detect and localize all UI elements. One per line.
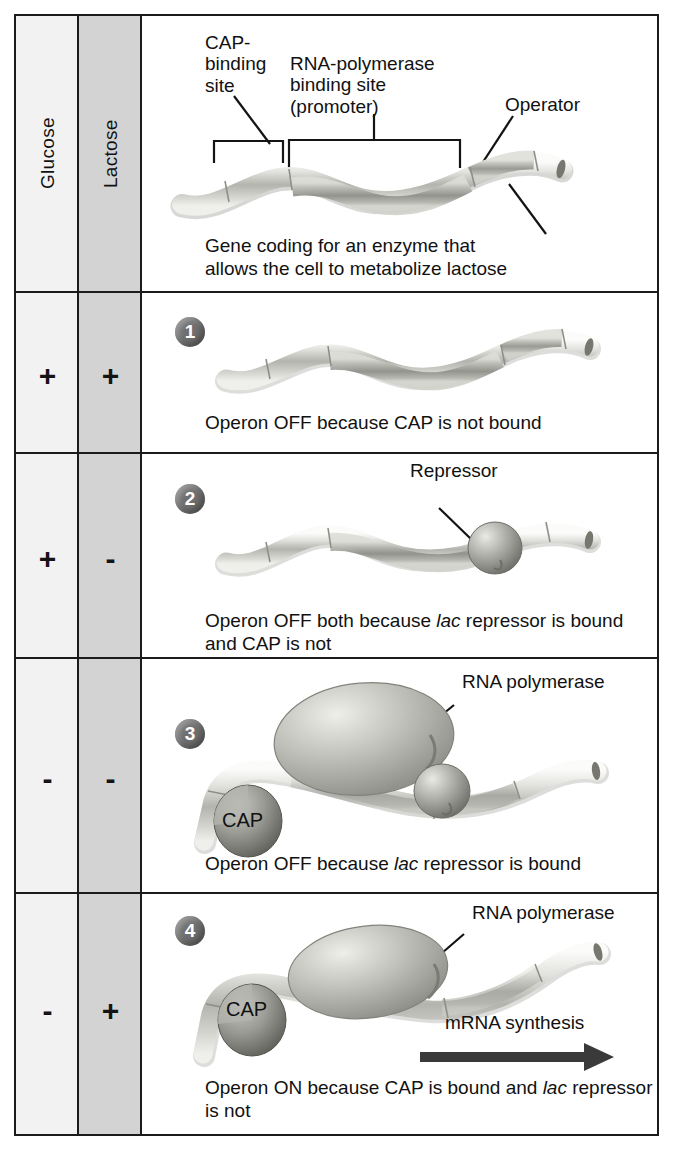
- row-4-graphic: [142, 906, 661, 1076]
- repressor-protein: [414, 764, 470, 818]
- dna-strand: [226, 522, 595, 566]
- caption-row-2: Operon OFF both because lac repressor is…: [205, 609, 657, 655]
- caption-row-1: Operon OFF because CAP is not bound: [205, 411, 542, 434]
- panel-row-1: 1 Operon OFF because CAP is not bound: [142, 293, 657, 452]
- row-1-graphic: [142, 307, 661, 427]
- cell-lactose-row-1: +: [79, 361, 142, 391]
- panel-row-2: 2 Repressor Operon OFF both because lac …: [142, 454, 657, 657]
- row-3-graphic: [142, 673, 661, 868]
- panel-row-4: 4 RNA polymerase: [142, 894, 657, 1136]
- cell-glucose-row-1: +: [16, 361, 79, 391]
- dna-strand: [182, 151, 567, 208]
- cell-lactose-row-4: +: [79, 996, 142, 1026]
- label-mrna-synthesis: mRNA synthesis: [445, 1012, 584, 1034]
- caption-row-4: Operon ON because CAP is bound and lac r…: [205, 1076, 655, 1122]
- cell-lactose-row-2: -: [79, 544, 142, 574]
- lac-operon-figure: Glucose Lactose + + + - - - - + CAP- bin…: [14, 14, 659, 1136]
- label-cap-row-4: CAP: [226, 998, 267, 1020]
- row-2-graphic: [142, 472, 661, 622]
- panel-header: CAP- binding site RNA-polymerase binding…: [142, 16, 657, 291]
- repressor-protein: [468, 522, 522, 574]
- cell-glucose-row-2: +: [16, 544, 79, 574]
- column-header-lactose: Lactose: [79, 16, 142, 291]
- caption-gene-line1: Gene coding for an enzyme that: [205, 234, 475, 257]
- caption-gene-line2: allows the cell to metabolize lactose: [205, 257, 507, 280]
- cell-glucose-row-4: -: [16, 996, 79, 1026]
- cell-glucose-row-3: -: [16, 764, 79, 794]
- cell-lactose-row-3: -: [79, 764, 142, 794]
- mrna-synthesis-arrow: [420, 1043, 614, 1071]
- caption-row-3: Operon OFF because lac repressor is boun…: [205, 852, 581, 875]
- panel-row-3: 3 RNA polymerase: [142, 659, 657, 892]
- dna-strand: [226, 329, 595, 383]
- column-header-glucose: Glucose: [16, 16, 79, 291]
- label-cap-row-3: CAP: [222, 809, 263, 831]
